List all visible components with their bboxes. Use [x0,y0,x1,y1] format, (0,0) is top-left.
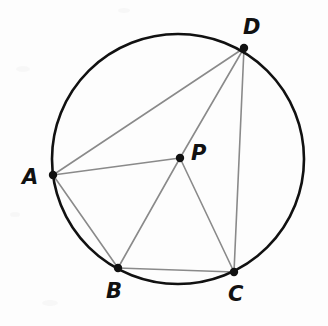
vertex-dots-group [49,44,248,276]
segment-p-b [118,158,180,268]
vertex-dot-p [176,154,184,162]
segment-b-c [118,268,234,272]
segment-a-b [53,175,118,268]
vertex-dot-b [114,264,122,272]
segment-a-p [53,158,180,175]
vertex-dot-a [49,171,57,179]
vertex-dot-d [240,44,248,52]
figure-canvas [0,0,328,326]
vertex-label-c: C [228,284,243,305]
vertex-label-d: D [243,17,260,38]
vertex-dot-c [230,268,238,276]
segment-d-c [234,48,244,272]
segment-a-d [53,48,244,175]
vertex-label-b: B [106,281,122,302]
vertex-label-a: A [22,167,38,188]
segment-d-p [180,48,244,158]
segment-p-c [180,158,234,272]
vertex-label-p: P [191,143,206,164]
geometry-figure: A B C D P [0,0,328,326]
